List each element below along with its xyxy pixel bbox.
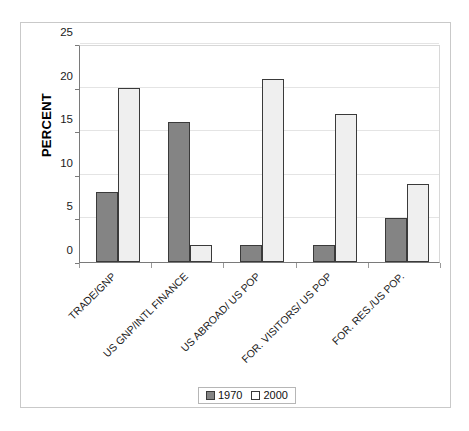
- bar: [313, 245, 335, 262]
- legend-label-1970: 1970: [218, 390, 242, 401]
- x-axis-tick-mark: [368, 263, 369, 268]
- bar: [168, 122, 190, 262]
- x-axis-tick-mark: [223, 263, 224, 268]
- bar: [118, 88, 140, 262]
- y-axis-tick-mark: [75, 45, 79, 46]
- bar: [240, 245, 262, 262]
- y-axis-tick-mark: [75, 263, 79, 264]
- y-axis-tick-mark: [75, 132, 79, 133]
- legend-entry-1970: 1970: [206, 390, 242, 401]
- y-axis-tick-label: 0: [47, 244, 73, 256]
- y-axis-tick-mark: [75, 176, 79, 177]
- gridline: [80, 43, 439, 44]
- y-axis-tick-label: 20: [47, 70, 73, 82]
- y-axis-tick-label: 25: [47, 26, 73, 38]
- bar: [262, 79, 284, 262]
- y-axis-tick-labels: 0510152025: [45, 45, 73, 263]
- x-axis-tick-mark: [296, 263, 297, 268]
- white-swatch-icon: [251, 391, 260, 400]
- y-axis-tick-label: 10: [47, 157, 73, 169]
- y-axis-tick-label: 5: [47, 200, 73, 212]
- y-axis-tick-label: 15: [47, 113, 73, 125]
- bar: [407, 184, 429, 262]
- x-axis-tick-mark: [440, 263, 441, 268]
- x-axis-tick-mark: [151, 263, 152, 268]
- bar: [385, 218, 407, 262]
- chart-figure: PERCENT 0510152025 TRADE/GNPUS GNP/INTL …: [0, 0, 469, 431]
- legend-entry-2000: 2000: [251, 390, 287, 401]
- legend-label-2000: 2000: [263, 390, 287, 401]
- bar: [190, 245, 212, 262]
- y-axis-tick-mark: [75, 89, 79, 90]
- y-axis-tick-mark: [75, 219, 79, 220]
- bar: [335, 114, 357, 262]
- x-axis-tick-mark: [79, 263, 80, 268]
- chart-legend: 1970 2000: [198, 387, 296, 404]
- dark-gray-swatch-icon: [206, 391, 215, 400]
- plot-area: [79, 45, 440, 263]
- bar: [96, 192, 118, 262]
